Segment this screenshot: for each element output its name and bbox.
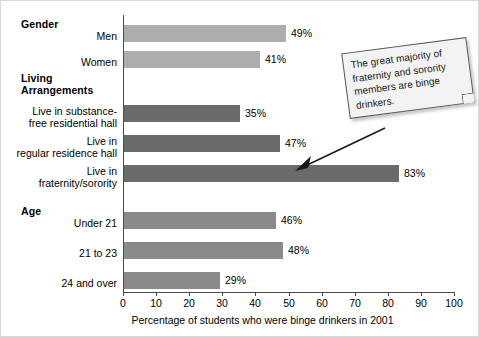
bar-value-women: 41% xyxy=(265,51,286,68)
tick-mark-30 xyxy=(222,292,223,296)
tick-label-80: 80 xyxy=(382,297,394,309)
category-label-24-and-over: 24 and over xyxy=(11,277,123,289)
bar-value-24-and-over: 29% xyxy=(225,272,246,289)
tick-mark-90 xyxy=(421,292,422,296)
x-axis-title-text: Percentage of students who were binge dr… xyxy=(87,314,393,326)
bar-value-21-to-23: 48% xyxy=(288,242,309,259)
bar-value-fraternity-sorority: 83% xyxy=(404,165,425,182)
binge-drinking-bar-chart: Gender Living Arrangements Age Men Women… xyxy=(0,0,479,337)
bar-regular-residence-hall xyxy=(124,135,280,152)
tick-mark-50 xyxy=(289,292,290,296)
category-label-men: Men xyxy=(11,30,123,42)
callout-fold-corner-icon xyxy=(462,93,475,104)
category-label-substance-line2: free residential hall xyxy=(11,117,123,129)
tick-mark-20 xyxy=(189,292,190,296)
category-label-substance-line1: Live in substance- xyxy=(11,105,123,117)
category-label-21-to-23: 21 to 23 xyxy=(11,247,123,259)
category-label-regular-line2: regular residence hall xyxy=(11,147,123,159)
bar-21-to-23 xyxy=(124,242,283,259)
bar-value-under-21: 46% xyxy=(281,212,302,229)
tick-mark-10 xyxy=(156,292,157,296)
bar-men xyxy=(124,25,286,42)
tick-label-90: 90 xyxy=(415,297,427,309)
bar-value-men: 49% xyxy=(291,25,312,42)
category-label-fraternity-line1: Live in xyxy=(11,165,123,177)
tick-mark-40 xyxy=(255,292,256,296)
tick-mark-80 xyxy=(388,292,389,296)
tick-label-20: 20 xyxy=(183,297,195,309)
bar-fraternity-sorority xyxy=(124,165,399,182)
tick-label-10: 10 xyxy=(150,297,162,309)
tick-label-40: 40 xyxy=(249,297,261,309)
category-label-fraternity-line2: fraternity/sorority xyxy=(11,177,123,189)
bar-value-regular-residence-hall: 47% xyxy=(285,135,306,152)
tick-mark-100 xyxy=(454,292,455,296)
tick-label-70: 70 xyxy=(349,297,361,309)
annotation-callout-box: The great majority of fraternity and sor… xyxy=(341,37,475,119)
bar-24-and-over xyxy=(124,272,220,289)
annotation-callout-text: The great majority of fraternity and sor… xyxy=(350,44,468,112)
tick-label-0: 0 xyxy=(120,297,126,309)
bar-substance-free-hall xyxy=(124,105,240,122)
bar-women xyxy=(124,51,260,68)
tick-mark-70 xyxy=(355,292,356,296)
category-label-women: Women xyxy=(11,56,123,68)
category-label-under-21: Under 21 xyxy=(11,217,123,229)
tick-mark-60 xyxy=(322,292,323,296)
tick-mark-0 xyxy=(123,292,124,296)
bar-value-substance-free-hall: 35% xyxy=(245,105,266,122)
category-label-column: Men Women Live in substance- free reside… xyxy=(5,1,123,337)
tick-label-50: 50 xyxy=(283,297,295,309)
x-axis-title: Percentage of students who were binge dr… xyxy=(1,314,479,326)
tick-label-60: 60 xyxy=(316,297,328,309)
tick-label-100: 100 xyxy=(445,297,463,309)
tick-label-30: 30 xyxy=(216,297,228,309)
category-label-regular-line1: Live in xyxy=(11,135,123,147)
bar-under-21 xyxy=(124,212,276,229)
